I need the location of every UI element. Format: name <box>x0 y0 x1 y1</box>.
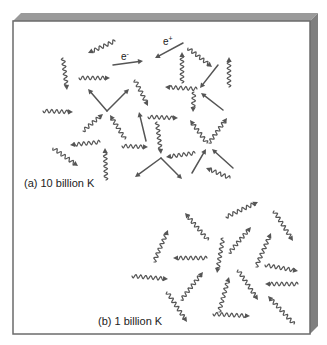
panel-a-label: (a) 10 billion K <box>24 177 94 189</box>
diagram-svg <box>0 0 327 345</box>
panel-b-label: (b) 1 billion K <box>98 315 162 327</box>
panel-side-bevel <box>310 13 318 334</box>
positron-label: e+ <box>163 35 173 47</box>
diagram-canvas: e- e+ (a) 10 billion K (b) 1 billion K <box>0 0 327 345</box>
electron-label: e- <box>121 50 129 62</box>
panel-top-bevel <box>13 13 318 21</box>
